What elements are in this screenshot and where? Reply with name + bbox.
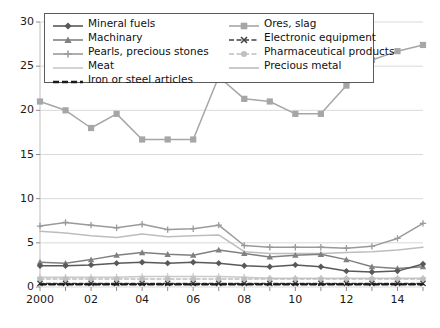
legend-swatch [51, 59, 85, 71]
data-point [292, 111, 298, 117]
series-machinary [37, 247, 426, 271]
data-point [62, 219, 68, 225]
y-axis-tick-label: 15 [8, 148, 34, 161]
legend-item-label: Electronic equipment [264, 31, 376, 43]
legend-marker-line-dashed-thick-icon [51, 76, 85, 88]
legend-column-2: Ores, slagElectronic equipmentPharmaceut… [227, 14, 377, 72]
series-line [40, 262, 423, 272]
legend-swatch [51, 73, 85, 85]
legend-item-ores-slag[interactable]: Ores, slag [227, 16, 377, 30]
legend-item-iron-or-steel-articles[interactable]: Iron or steel articles [51, 72, 231, 86]
data-point [139, 221, 145, 227]
x-axis-tick-label: 04 [122, 293, 162, 306]
data-point [165, 136, 171, 142]
data-point [62, 107, 68, 113]
data-point [267, 244, 273, 250]
data-point [394, 48, 400, 54]
y-axis-tick-label: 30 [8, 15, 34, 28]
data-point [369, 269, 375, 275]
data-point [164, 260, 170, 266]
series-line [40, 276, 423, 278]
x-axis-tick-label: 02 [71, 293, 111, 306]
y-axis-tick-label: 5 [8, 236, 34, 249]
data-point [318, 244, 324, 250]
data-point [37, 98, 43, 104]
data-point [343, 245, 349, 251]
data-point [164, 226, 170, 232]
legend-item-label: Iron or steel articles [88, 73, 193, 85]
legend-item-meat[interactable]: Meat [51, 58, 231, 72]
series-meat [37, 273, 426, 281]
data-point [292, 244, 298, 250]
data-point [267, 98, 273, 104]
x-axis-tick-label: 2000 [20, 293, 60, 306]
y-axis-tick-label: 20 [8, 103, 34, 116]
data-point [190, 226, 196, 232]
line-chart: 051015202530 200002040608101214 Mineral … [0, 0, 440, 328]
data-point [241, 263, 247, 269]
y-axis-tick-label: 0 [8, 280, 34, 293]
y-axis-tick-label: 10 [8, 192, 34, 205]
data-point [88, 222, 94, 228]
legend-swatch [51, 31, 85, 43]
legend-item-precious-metal[interactable]: Precious metal [227, 58, 377, 72]
series-mineral-fuels [37, 259, 426, 275]
data-point [369, 243, 375, 249]
y-axis-tick-label: 25 [8, 59, 34, 72]
data-point [114, 111, 120, 117]
legend-swatch [51, 17, 85, 29]
data-point [241, 96, 247, 102]
data-point [139, 136, 145, 142]
data-point [420, 220, 426, 226]
data-point [318, 111, 324, 117]
data-point [267, 263, 273, 269]
legend-swatch [51, 45, 85, 57]
data-point [88, 262, 94, 268]
legend-swatch [227, 45, 261, 57]
data-point [343, 83, 349, 89]
data-point [190, 259, 196, 265]
legend-item-pearls-precious-stones[interactable]: Pearls, precious stones [51, 44, 231, 58]
series-line [40, 223, 423, 249]
data-point [88, 125, 94, 131]
data-point [37, 223, 43, 229]
x-axis-tick-label: 06 [173, 293, 213, 306]
legend-item-label: Meat [88, 59, 114, 71]
legend-swatch [227, 17, 261, 29]
x-axis-tick-label: 12 [326, 293, 366, 306]
legend-item-label: Machinary [88, 31, 142, 43]
legend-item-machinary[interactable]: Machinary [51, 30, 231, 44]
legend-item-label: Precious metal [264, 59, 341, 71]
x-axis-tick-label: 08 [224, 293, 264, 306]
series-line [40, 250, 423, 269]
data-point [420, 42, 426, 48]
data-point [139, 259, 145, 265]
data-point [113, 225, 119, 231]
data-point [318, 263, 324, 269]
legend-item-electronic-equipment[interactable]: Electronic equipment [227, 30, 377, 44]
legend-item-label: Mineral fuels [88, 17, 155, 29]
legend-swatch [227, 31, 261, 43]
data-point [394, 235, 400, 241]
x-axis-tick-label: 14 [377, 293, 417, 306]
legend-item-label: Pharmaceutical products [264, 45, 394, 57]
legend-column-1: Mineral fuelsMachinaryPearls, precious s… [51, 14, 231, 86]
legend-swatch [227, 59, 261, 71]
data-point [292, 262, 298, 268]
data-point [343, 268, 349, 274]
legend-item-label: Ores, slag [264, 17, 316, 29]
data-point [216, 260, 222, 266]
legend-marker-line-plain-icon [227, 62, 261, 74]
legend-item-label: Pearls, precious stones [88, 45, 209, 57]
data-point [190, 136, 196, 142]
legend-item-mineral-fuels[interactable]: Mineral fuels [51, 16, 231, 30]
data-point [113, 260, 119, 266]
x-axis-tick-label: 10 [275, 293, 315, 306]
chart-legend: Mineral fuelsMachinaryPearls, precious s… [44, 13, 374, 83]
legend-item-pharmaceutical-products[interactable]: Pharmaceutical products [227, 44, 377, 58]
